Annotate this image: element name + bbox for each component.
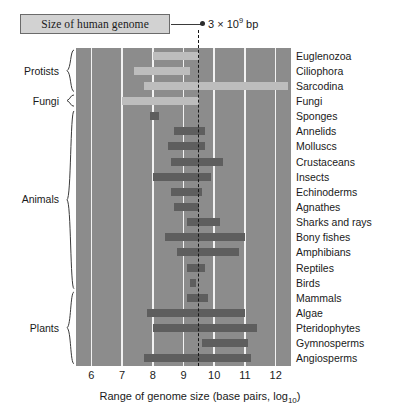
category-label: Fungi xyxy=(296,96,322,107)
category-label: Sponges xyxy=(296,111,337,122)
range-bar xyxy=(144,82,288,90)
category-label: Molluscs xyxy=(296,141,337,152)
category-label: Sharks and rays xyxy=(296,217,372,228)
tick-label-8: 8 xyxy=(150,370,156,381)
range-bar xyxy=(168,142,205,150)
range-bar xyxy=(187,264,205,272)
tick-label-7: 7 xyxy=(119,370,125,381)
range-bar xyxy=(202,339,248,347)
chart-plot-area xyxy=(76,48,291,366)
callout-anchor-dot xyxy=(200,21,205,26)
group-brace xyxy=(66,110,75,290)
category-label: Agnathes xyxy=(296,202,340,213)
tick-label-6: 6 xyxy=(88,370,94,381)
human-genome-value: 3 × 109 bp xyxy=(208,16,258,30)
human-genome-callout-label: Size of human genome xyxy=(41,18,149,30)
category-label: Mammals xyxy=(296,293,342,304)
category-label: Crustaceans xyxy=(296,157,355,168)
range-bar xyxy=(134,67,189,75)
gridline-11 xyxy=(244,48,246,366)
tick-label-10: 10 xyxy=(208,370,220,381)
category-label: Sarcodina xyxy=(296,81,343,92)
x-axis-title-end: ) xyxy=(297,390,301,402)
gridline-6 xyxy=(91,48,93,366)
group-label: Protists xyxy=(24,66,59,77)
group-label: Animals xyxy=(22,194,59,205)
gridline-10 xyxy=(213,48,215,366)
human-genome-reference-line xyxy=(198,40,199,366)
tick-label-12: 12 xyxy=(270,370,282,381)
group-brace xyxy=(66,49,75,92)
range-bar xyxy=(147,309,245,317)
range-bar xyxy=(153,173,211,181)
category-label: Angiosperms xyxy=(296,353,357,364)
category-label: Euglenozoa xyxy=(296,51,351,62)
human-genome-callout-box: Size of human genome xyxy=(20,14,170,34)
range-bar xyxy=(150,112,159,120)
group-label: Fungi xyxy=(33,96,59,107)
category-label: Reptiles xyxy=(296,263,334,274)
human-genome-value-unit: bp xyxy=(243,18,258,30)
tick-label-9: 9 xyxy=(180,370,186,381)
category-label: Gymnosperms xyxy=(296,338,364,349)
category-label: Algae xyxy=(296,308,323,319)
category-label: Ciliophora xyxy=(296,66,343,77)
category-label: Insects xyxy=(296,172,329,183)
tick-label-11: 11 xyxy=(239,370,250,381)
range-bar xyxy=(153,52,199,60)
gridline-7 xyxy=(121,48,123,366)
group-brace xyxy=(66,291,75,365)
range-bar xyxy=(174,127,205,135)
group-brace xyxy=(66,94,75,107)
category-label: Echinoderms xyxy=(296,187,357,198)
gridline-8 xyxy=(152,48,154,366)
group-label: Plants xyxy=(30,323,59,334)
category-label: Annelids xyxy=(296,126,336,137)
category-label: Bony fishes xyxy=(296,232,350,243)
x-axis-title: Range of genome size (base pairs, log10) xyxy=(0,390,400,405)
x-axis-title-main: Range of genome size (base pairs, log xyxy=(100,390,288,402)
range-bar xyxy=(187,218,221,226)
range-bar xyxy=(177,248,238,256)
callout-leader-line xyxy=(171,24,203,26)
category-label: Birds xyxy=(296,278,320,289)
range-bar xyxy=(165,233,245,241)
range-bar xyxy=(153,324,257,332)
category-label: Pteridophytes xyxy=(296,323,360,334)
human-genome-value-mantissa: 3 × 10 xyxy=(208,18,239,30)
category-label: Amphibians xyxy=(296,247,351,258)
range-bar xyxy=(190,279,196,287)
range-bar xyxy=(122,97,199,105)
x-axis-title-sub: 10 xyxy=(288,396,297,405)
gridline-12 xyxy=(275,48,277,366)
range-bar xyxy=(174,203,199,211)
